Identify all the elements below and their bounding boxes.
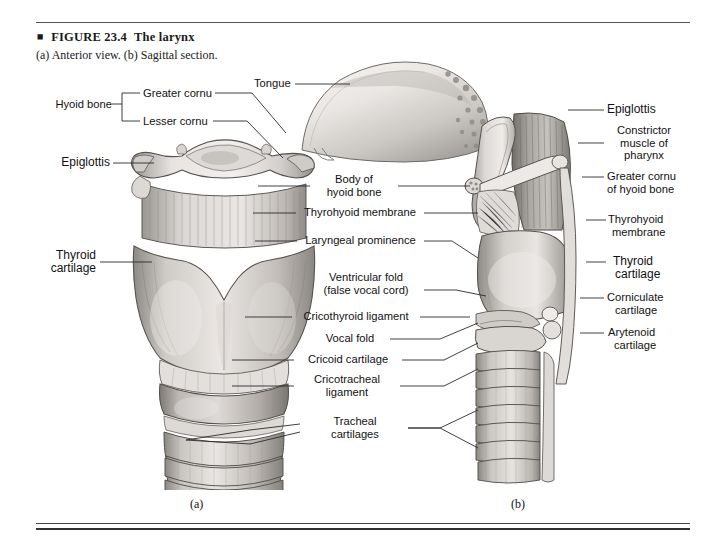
label-corniculate-cartilage: Corniculate cartilage xyxy=(607,291,664,316)
label-epiglottis-right: Epiglottis xyxy=(607,103,656,116)
label-corniculate-cartilage-line1: Corniculate xyxy=(607,291,664,303)
label-constrictor-muscle-line3: pharynx xyxy=(624,149,664,161)
figure-caption-title: ◆FIGURE 23.4The larynx xyxy=(36,30,195,45)
label-hyoid-bone: Hyoid bone xyxy=(10,98,112,111)
label-tracheal-cartilages: Tracheal cartilages xyxy=(302,415,408,440)
label-greater-cornu-of-hyoid-bone: Greater cornu of hyoid bone xyxy=(607,170,676,195)
rule-bottom-upper xyxy=(36,523,690,524)
figure-number: FIGURE 23.4 xyxy=(51,30,127,44)
panel-letter-b: (b) xyxy=(511,497,525,512)
sagittal-larynx-illustration xyxy=(452,108,612,488)
label-cricotracheal-ligament: Cricotracheal ligament xyxy=(294,373,400,398)
label-corniculate-cartilage-line2: cartilage xyxy=(615,304,657,316)
label-thyroid-cartilage-left-line2: cartilage xyxy=(51,261,96,275)
label-tracheal-cartilages-line1: Tracheal xyxy=(333,415,376,427)
label-laryngeal-prominence: Laryngeal prominence xyxy=(297,234,424,247)
label-constrictor-muscle-line2: muscle of xyxy=(620,137,668,149)
label-arytenoid-cartilage: Arytenoid cartilage xyxy=(608,326,656,351)
label-cricotracheal-ligament-line1: Cricotracheal xyxy=(314,373,380,385)
label-cricoid-cartilage: Cricoid cartilage xyxy=(294,353,402,366)
figure-page: ◆FIGURE 23.4The larynx (a) Anterior view… xyxy=(0,0,720,542)
panel-letter-a: (a) xyxy=(190,497,203,512)
label-ventricular-fold-line1: Ventricular fold xyxy=(329,271,403,283)
label-thyroid-cartilage-right: Thyroid cartilage xyxy=(613,255,660,280)
rule-bottom-lower xyxy=(36,528,690,530)
label-vocal-fold: Vocal fold xyxy=(310,332,390,345)
label-greater-cornu-hyoid-line1: Greater cornu xyxy=(607,170,676,182)
anterior-larynx-illustration xyxy=(120,120,330,490)
label-greater-cornu: Greater cornu xyxy=(143,87,212,100)
label-thyrohyoid-membrane-center: Thyrohyoid membrane xyxy=(296,206,424,219)
label-epiglottis-left: Epiglottis xyxy=(10,156,110,169)
rule-top xyxy=(36,22,690,23)
label-arytenoid-cartilage-line2: cartilage xyxy=(614,339,656,351)
label-thyroid-cartilage-left: Thyroid cartilage xyxy=(10,249,96,274)
label-body-of-hyoid-bone-line2: hyoid bone xyxy=(327,186,382,198)
label-constrictor-muscle-line1: Constrictor xyxy=(617,124,671,136)
label-thyroid-cartilage-right-line1: Thyroid xyxy=(613,254,653,268)
label-cricothyroid-ligament: Cricothyroid ligament xyxy=(292,310,420,323)
figure-subtitle: (a) Anterior view. (b) Sagittal section. xyxy=(36,48,218,63)
label-cricotracheal-ligament-line2: ligament xyxy=(326,386,368,398)
diamond-bullet-icon: ◆ xyxy=(34,30,46,42)
label-body-of-hyoid-bone-line1: Body of xyxy=(335,173,373,185)
label-thyroid-cartilage-right-line2: cartilage xyxy=(615,267,660,281)
label-ventricular-fold-line2: (false vocal cord) xyxy=(323,284,408,296)
label-tongue: Tongue xyxy=(254,77,291,90)
label-thyrohyoid-membrane-right-line1: Thyrohyoid xyxy=(608,213,663,225)
label-lesser-cornu: Lesser cornu xyxy=(143,115,208,128)
label-thyrohyoid-membrane-right-line2: membrane xyxy=(612,226,665,238)
label-ventricular-fold: Ventricular fold (false vocal cord) xyxy=(308,271,424,296)
label-body-of-hyoid-bone: Body of hyoid bone xyxy=(308,173,400,198)
figure-title: The larynx xyxy=(134,30,195,44)
label-greater-cornu-hyoid-line2: of hyoid bone xyxy=(607,183,674,195)
label-thyrohyoid-membrane-right: Thyrohyoid membrane xyxy=(608,213,665,238)
label-tracheal-cartilages-line2: cartilages xyxy=(331,428,379,440)
label-constrictor-muscle-of-pharynx: Constrictor muscle of pharynx xyxy=(604,124,684,162)
label-arytenoid-cartilage-line1: Arytenoid xyxy=(608,326,655,338)
